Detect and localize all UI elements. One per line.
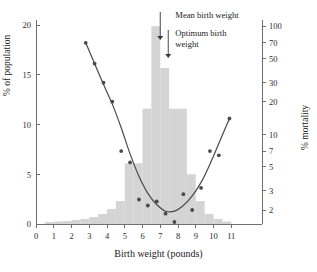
data-point	[217, 153, 221, 157]
histogram-bar	[134, 163, 143, 224]
svg-text:10: 10	[23, 120, 32, 130]
histogram-bar	[107, 209, 116, 224]
data-point	[84, 41, 88, 45]
svg-text:20: 20	[23, 20, 32, 30]
svg-text:5: 5	[27, 170, 31, 180]
histogram-bar	[80, 219, 89, 224]
optimum-birth-weight-label-line1: Optimum birth	[175, 28, 227, 38]
svg-text:100: 100	[269, 21, 282, 31]
chart-annotations: Mean birth weightOptimum birthweight	[157, 10, 239, 58]
svg-text:7: 7	[158, 231, 162, 241]
histogram-bar	[169, 109, 178, 224]
svg-text:2: 2	[269, 205, 273, 215]
svg-text:70: 70	[269, 38, 278, 48]
svg-text:50: 50	[269, 54, 278, 64]
data-point	[181, 192, 185, 196]
svg-text:15: 15	[23, 70, 32, 80]
svg-text:30: 30	[269, 78, 278, 88]
svg-text:2: 2	[69, 231, 73, 241]
data-point	[208, 149, 212, 153]
histogram-bar	[89, 217, 98, 224]
data-point	[228, 117, 232, 121]
svg-text:10: 10	[209, 231, 218, 241]
histogram-bar	[160, 68, 169, 224]
data-point	[119, 149, 123, 153]
svg-text:3: 3	[269, 186, 273, 196]
histogram-bar	[151, 26, 160, 224]
histogram-bar	[72, 220, 81, 224]
y-axis-right-title: % mortality	[300, 60, 310, 150]
svg-text:11: 11	[227, 231, 235, 241]
data-point	[137, 198, 141, 202]
svg-text:3: 3	[87, 231, 91, 241]
svg-text:1: 1	[52, 231, 56, 241]
svg-text:9: 9	[194, 231, 198, 241]
histogram-bar	[125, 163, 134, 224]
birth-weight-mortality-chart: 01234567891011 05101520 2357102030507010…	[0, 0, 317, 272]
histogram-bar	[187, 174, 196, 224]
data-point	[102, 81, 106, 85]
chart-canvas: 01234567891011 05101520 2357102030507010…	[0, 0, 317, 272]
mean-birth-weight-label: Mean birth weight	[175, 10, 239, 20]
data-point	[128, 161, 132, 165]
data-point	[199, 186, 203, 190]
svg-text:5: 5	[123, 231, 127, 241]
svg-text:7: 7	[269, 146, 273, 156]
data-point	[173, 220, 177, 224]
data-point	[190, 208, 194, 212]
data-point	[164, 212, 168, 216]
svg-text:20: 20	[269, 97, 278, 107]
optimum-birth-weight-label-line2: weight	[175, 39, 199, 49]
svg-text:6: 6	[140, 231, 144, 241]
svg-text:5: 5	[269, 162, 273, 172]
x-axis-ticks: 01234567891011	[34, 224, 235, 241]
y-axis-left-title: % of population	[2, 6, 12, 96]
svg-text:8: 8	[176, 231, 180, 241]
data-point	[110, 100, 114, 104]
histogram-bar	[98, 214, 107, 224]
histogram-bar	[116, 201, 125, 224]
data-point	[93, 62, 97, 66]
svg-text:4: 4	[105, 231, 110, 241]
svg-text:10: 10	[269, 130, 278, 140]
y-axis-left-ticks: 05101520	[23, 20, 41, 229]
y-axis-right-ticks: 23571020305070100	[262, 21, 282, 215]
histogram-bar	[205, 214, 214, 224]
svg-text:0: 0	[34, 231, 38, 241]
data-point	[155, 200, 159, 204]
x-axis-title: Birth weight (pounds)	[0, 248, 317, 259]
histogram-bar	[214, 219, 223, 224]
optimum-birth-weight-arrow	[165, 30, 171, 58]
histogram-bars	[45, 26, 231, 224]
data-point	[146, 204, 150, 208]
svg-text:0: 0	[27, 219, 31, 229]
histogram-bar	[196, 201, 205, 224]
